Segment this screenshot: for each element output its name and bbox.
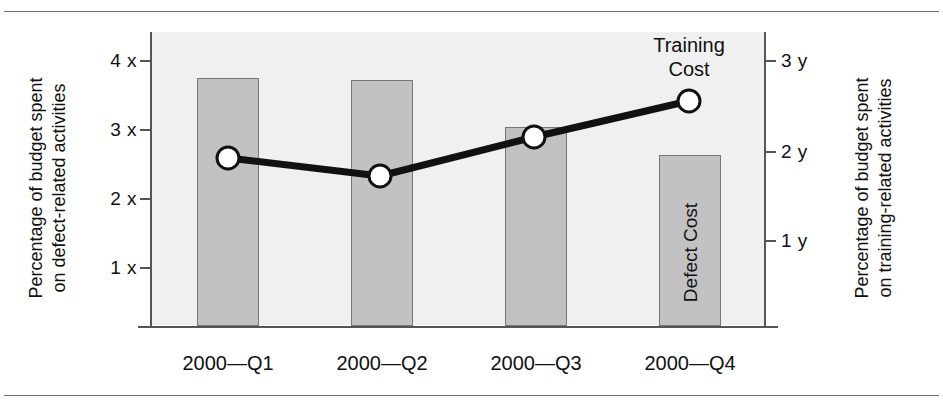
right-axis-tick-2y bbox=[765, 151, 776, 153]
bar-defect-cost-q1 bbox=[197, 78, 259, 326]
left-axis-tick-1x bbox=[140, 267, 151, 269]
right-axis-title: Percentage of budget spent on training-r… bbox=[851, 38, 897, 338]
left-axis-tick-label-1x: 1 x bbox=[110, 258, 137, 277]
x-axis-label-q3: 2000—Q3 bbox=[461, 352, 611, 374]
left-axis-tick-label-3x: 3 x bbox=[110, 120, 137, 139]
left-axis-title-line-1: Percentage of budget spent bbox=[25, 38, 48, 338]
defect-cost-series-label: Defect Cost bbox=[681, 173, 700, 333]
x-axis-label-q1: 2000—Q1 bbox=[153, 352, 303, 374]
training-cost-label-line-2: Cost bbox=[609, 57, 769, 81]
bar-defect-cost-q2 bbox=[351, 80, 413, 326]
x-axis-label-q4: 2000—Q4 bbox=[615, 352, 765, 374]
right-axis-tick-label-2y: 2 y bbox=[781, 142, 808, 161]
chart-figure: 4 x 3 x 2 x 1 x 3 y 2 y 1 y Percentage o… bbox=[0, 0, 943, 406]
figure-bottom-rule bbox=[4, 395, 939, 396]
left-axis-tick-label-2x: 2 x bbox=[110, 189, 137, 208]
left-axis-title-line-2: on defect-related activities bbox=[48, 38, 71, 338]
left-axis-spine bbox=[150, 32, 152, 328]
bar-defect-cost-q3 bbox=[505, 127, 567, 326]
training-cost-series-label: Training Cost bbox=[609, 33, 769, 81]
right-axis-tick-1y bbox=[765, 240, 776, 242]
x-axis-label-q2: 2000—Q2 bbox=[307, 352, 457, 374]
left-axis-tick-3x bbox=[140, 129, 151, 131]
left-axis-tick-label-4x: 4 x bbox=[110, 51, 137, 70]
left-axis-tick-4x bbox=[140, 60, 151, 62]
left-axis-title: Percentage of budget spent on defect-rel… bbox=[25, 38, 71, 338]
right-axis-title-line-1: Percentage of budget spent bbox=[851, 38, 874, 338]
training-cost-label-line-1: Training bbox=[609, 33, 769, 57]
right-axis-tick-label-1y: 1 y bbox=[781, 231, 808, 250]
right-axis-title-line-2: on training-related activities bbox=[874, 38, 897, 338]
right-axis-tick-label-3y: 3 y bbox=[781, 51, 808, 70]
figure-top-rule bbox=[4, 11, 939, 12]
left-axis-tick-2x bbox=[140, 198, 151, 200]
